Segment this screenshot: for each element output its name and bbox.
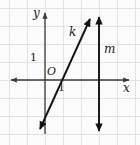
x-axis-label: x: [123, 82, 130, 94]
origin-label: O: [47, 66, 56, 77]
coordinate-plane-figure: y x O k m 1 1: [0, 0, 140, 145]
x-unit-tick-label: 1: [58, 82, 65, 93]
y-unit-tick-label: 1: [30, 52, 37, 63]
line-k-label: k: [69, 26, 76, 38]
grid-lines: [0, 0, 140, 145]
y-axis-label: y: [33, 7, 40, 19]
line-m-label: m: [104, 43, 115, 55]
graph-canvas: [0, 0, 140, 145]
